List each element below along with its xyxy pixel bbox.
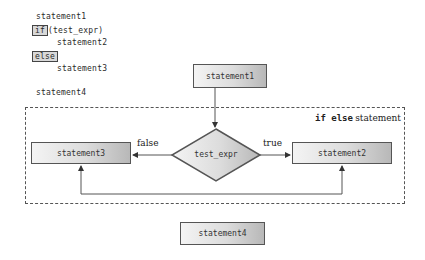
node-statement2: statement2 <box>292 142 392 164</box>
node-label: statement3 <box>57 149 105 158</box>
false-label: false <box>137 138 159 148</box>
node-statement3: statement3 <box>31 142 131 164</box>
node-statement1: statement1 <box>193 64 267 88</box>
node-label: statement4 <box>198 229 246 238</box>
true-label: true <box>263 138 282 148</box>
node-label: statement1 <box>206 72 254 81</box>
node-statement4: statement4 <box>180 222 265 245</box>
flowchart-connectors <box>0 0 425 260</box>
node-label: statement2 <box>318 149 366 158</box>
decision-label: test_expr <box>172 146 260 164</box>
